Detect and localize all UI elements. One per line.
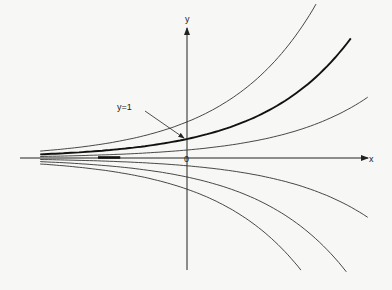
curve-4 (40, 162, 346, 272)
annotation-label: y=1 (117, 102, 132, 112)
chart-canvas: x y 0 y=1 (0, 0, 392, 290)
x-axis-label: x (369, 154, 374, 164)
curve-5 (40, 164, 301, 270)
y-axis-label: y (185, 14, 190, 24)
curve-0 (40, 4, 316, 151)
curve-2 (40, 97, 368, 156)
solution-curves (40, 4, 368, 272)
origin-label: 0 (184, 154, 189, 164)
curve-1 (40, 38, 351, 154)
